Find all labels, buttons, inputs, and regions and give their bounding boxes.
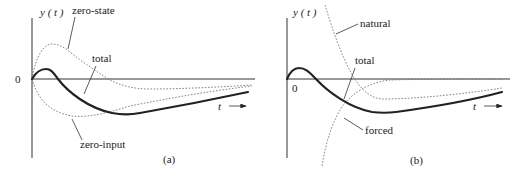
caption-a: (a) (163, 153, 176, 166)
total-label-a: total (92, 52, 112, 64)
zero-state-label: zero-state (72, 4, 115, 16)
total-leader-b (344, 68, 355, 99)
y-axis-label-a: y ( t ) (39, 6, 64, 19)
total-label-b: total (355, 54, 375, 66)
zero-input-label: zero-input (80, 138, 125, 150)
zero-input-leader (72, 119, 82, 140)
natural-leader (336, 24, 358, 34)
x-axis-label-a: t (218, 100, 222, 112)
total-curve-b (287, 68, 502, 113)
zero-state-curve (32, 44, 252, 89)
x-axis-label-b: t (473, 100, 477, 112)
y-axis-label-b: y ( t ) (292, 6, 317, 19)
forced-label: forced (365, 124, 394, 136)
panel-b: y ( t ) 0 t natural total forced (b) (287, 5, 510, 167)
origin-label-a: 0 (15, 73, 21, 85)
zero-state-leader (68, 17, 75, 49)
total-leader-a (84, 66, 96, 94)
origin-label-b: 0 (292, 82, 298, 94)
panel-a: y ( t ) 0 t zero-state total zero-input … (15, 4, 255, 166)
forced-leader (344, 118, 363, 130)
natural-curve (325, 5, 502, 99)
response-decomposition-figure: y ( t ) 0 t zero-state total zero-input … (0, 0, 526, 180)
total-curve-a (32, 69, 248, 115)
caption-b: (b) (410, 154, 423, 167)
natural-label: natural (360, 17, 391, 29)
